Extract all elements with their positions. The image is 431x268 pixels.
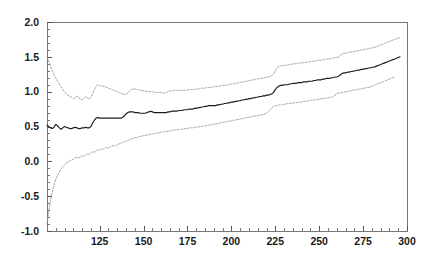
x-tick-label: 125 xyxy=(91,235,109,247)
data-series-group xyxy=(47,37,400,224)
y-tick-label: 2.0 xyxy=(24,16,39,28)
series-line-point-estimate xyxy=(47,57,400,129)
x-tick-label: 200 xyxy=(223,235,241,247)
x-tick-label: 150 xyxy=(135,235,153,247)
y-tick-label: 1.5 xyxy=(24,51,39,63)
plot-frame xyxy=(47,22,407,231)
y-tick-label: 1.0 xyxy=(24,85,39,97)
x-tick-label: 175 xyxy=(179,235,197,247)
series-line-upper-confidence-bound xyxy=(47,37,400,100)
y-tick-label: 0.0 xyxy=(24,155,39,167)
x-axis-tick-labels: 125150175200225250275300 xyxy=(91,235,416,247)
x-tick-label: 300 xyxy=(398,235,416,247)
y-tick-label: -0.5 xyxy=(21,190,39,202)
x-axis-ticks xyxy=(48,226,408,231)
line-chart-plot: 2.01.51.00.50.0-0.5-1.0 1251501752002252… xyxy=(0,0,431,268)
y-axis-tick-labels: 2.01.51.00.50.0-0.5-1.0 xyxy=(21,16,39,237)
y-tick-label: -1.0 xyxy=(21,225,39,237)
series-line-lower-confidence-bound xyxy=(47,77,395,224)
x-tick-label: 275 xyxy=(354,235,372,247)
x-tick-label: 225 xyxy=(267,235,285,247)
y-tick-label: 0.5 xyxy=(24,120,39,132)
x-tick-label: 250 xyxy=(310,235,328,247)
plot-frame-border xyxy=(47,22,407,231)
chart-container: 2.01.51.00.50.0-0.5-1.0 1251501752002252… xyxy=(0,0,431,268)
